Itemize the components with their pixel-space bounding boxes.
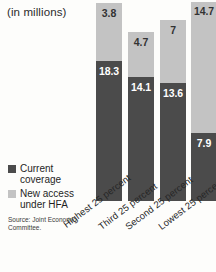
- legend-label-new-access-line2: under HFA: [20, 199, 68, 210]
- bar-value-label-new-access: 4.7: [128, 37, 154, 48]
- plot-area: 3.8 18.3 4.7 14.1 7 13.6: [96, 0, 216, 201]
- bar-value-label-current-coverage: 14.1: [128, 82, 154, 93]
- bar-segment-new-access: 14.7: [191, 2, 216, 133]
- chart-legend: Current coverage New access under HFA: [8, 163, 94, 213]
- legend-label-current-coverage: Current coverage: [20, 163, 94, 185]
- bar-value-label-new-access: 14.7: [191, 6, 216, 17]
- bar-value-label-current-coverage: 13.6: [160, 88, 186, 99]
- legend-item-current-coverage: Current coverage: [8, 163, 94, 185]
- source-note: Source: Joint Economic Committee.: [8, 216, 88, 232]
- y-axis-unit-caption: (in millions): [7, 6, 66, 18]
- bar-value-label-new-access: 7: [160, 25, 186, 36]
- bar-value-label-current-coverage: 18.3: [96, 66, 122, 77]
- source-note-line2: Committee.: [8, 224, 41, 231]
- bar-value-label-current-coverage: 7.9: [191, 138, 216, 149]
- legend-label-new-access-line1: New access: [20, 188, 74, 199]
- source-note-line1: Source: Joint Economic: [8, 216, 76, 223]
- stacked-bar-chart: (in millions) 3.8 18.3 4.7 14.1 7: [0, 0, 216, 272]
- bar-segment-new-access: 7: [160, 20, 186, 83]
- light-square-icon: [8, 190, 16, 198]
- bar-segment-new-access: 4.7: [128, 32, 154, 77]
- bar-value-label-new-access: 3.8: [96, 8, 122, 19]
- legend-item-new-access: New access under HFA: [8, 188, 94, 210]
- legend-label-new-access: New access under HFA: [20, 188, 74, 210]
- bar-segment-new-access: 3.8: [96, 3, 122, 61]
- dark-square-icon: [8, 165, 16, 173]
